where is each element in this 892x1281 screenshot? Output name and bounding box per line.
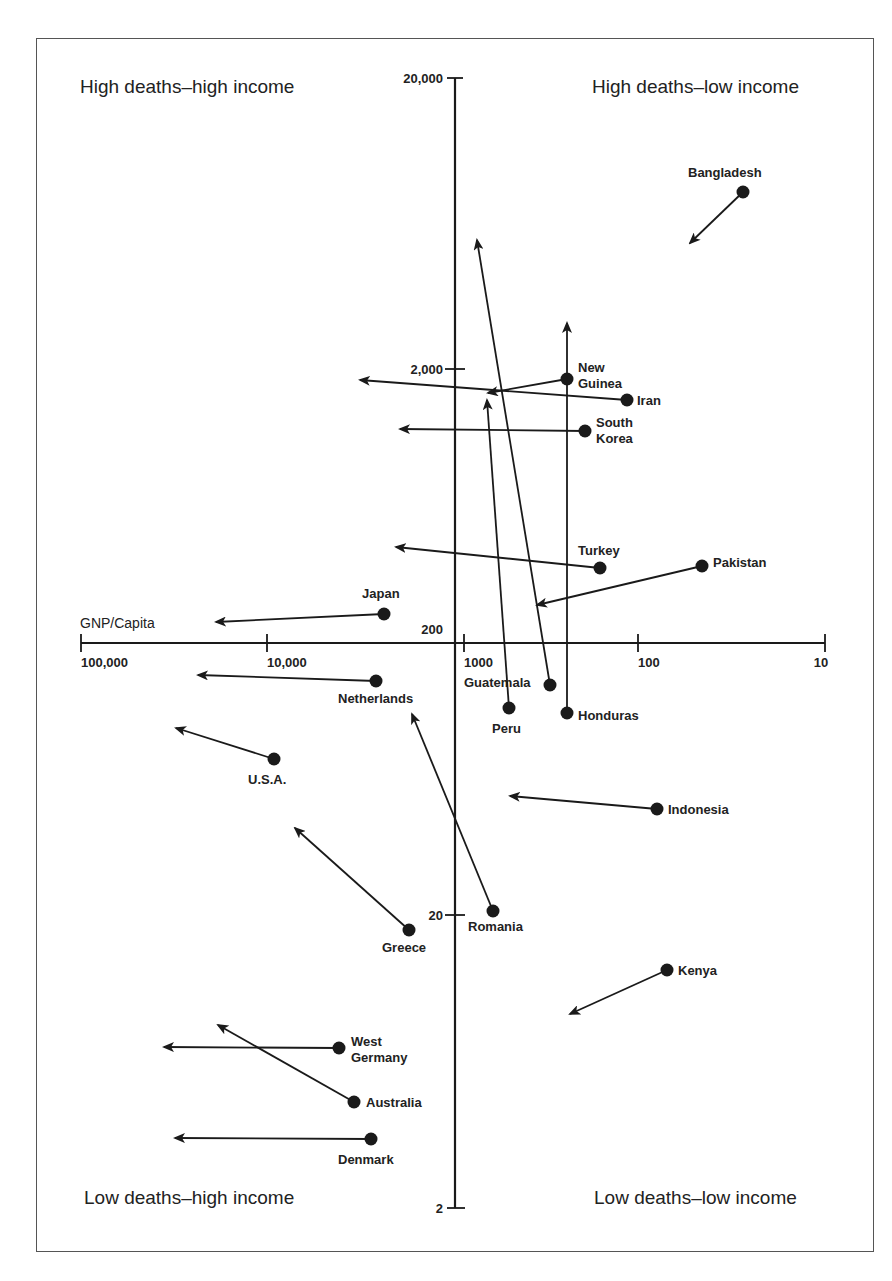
arrow-line: [198, 675, 376, 681]
arrow-line: [175, 1138, 371, 1139]
data-point-dot: [268, 753, 281, 766]
country-arrow: U.S.A.: [176, 728, 286, 787]
data-point-dot: [333, 1042, 346, 1055]
data-point-dot: [348, 1096, 361, 1109]
country-label-line2: Germany: [351, 1050, 408, 1065]
country-label: Turkey: [578, 543, 620, 558]
country-arrow: Romania: [412, 714, 524, 934]
y-tick-label: 20,000: [403, 71, 443, 86]
country-arrow: Bangladesh: [688, 165, 762, 243]
country-arrow: Netherlands: [198, 675, 413, 707]
country-label: Peru: [492, 721, 521, 736]
data-point-dot: [403, 924, 416, 937]
country-label: Honduras: [578, 708, 639, 723]
arrow-line: [537, 566, 702, 605]
arrow-line: [218, 1025, 354, 1102]
country-arrow: WestGermany: [164, 1034, 408, 1065]
arrow-line: [690, 192, 743, 243]
country-label-line2: Guinea: [578, 376, 623, 391]
country-arrow: Pakistan: [537, 555, 767, 605]
country-label: South: [596, 415, 633, 430]
country-label: Denmark: [338, 1152, 394, 1167]
country-label: New: [578, 360, 606, 375]
data-point-dot: [370, 675, 383, 688]
country-label: Bangladesh: [688, 165, 762, 180]
data-point-dot: [561, 707, 574, 720]
x-tick-label: 10: [814, 655, 828, 670]
data-point-dot: [365, 1133, 378, 1146]
country-label: Japan: [362, 586, 400, 601]
data-point-dot: [579, 425, 592, 438]
country-arrow: SouthKorea: [400, 415, 634, 446]
data-point-dot: [594, 562, 607, 575]
country-arrow: Australia: [218, 1025, 422, 1110]
country-label: Romania: [468, 919, 524, 934]
country-label: West: [351, 1034, 382, 1049]
country-label-line2: Korea: [596, 431, 634, 446]
arrow-line: [176, 728, 274, 759]
country-arrow: Turkey: [396, 543, 620, 575]
arrow-line: [412, 714, 493, 911]
country-label: Guatemala: [464, 675, 531, 690]
country-label: Greece: [382, 940, 426, 955]
y-tick-label: 2: [436, 1201, 443, 1216]
x-tick-label: 10,000: [267, 655, 307, 670]
data-point-dot: [378, 608, 391, 621]
data-point-dot: [503, 702, 516, 715]
arrow-line: [400, 429, 585, 431]
data-point-dot: [487, 905, 500, 918]
country-arrow: Kenya: [570, 963, 718, 1014]
y-tick-label: 2,000: [410, 362, 443, 377]
country-label: Kenya: [678, 963, 718, 978]
country-arrow: Greece: [295, 828, 426, 955]
data-point-dot: [661, 964, 674, 977]
data-point-dot: [696, 560, 709, 573]
arrow-line: [570, 970, 667, 1014]
arrow-plot: 100,00010,000100010010GNP/Capita20,0002,…: [0, 0, 892, 1281]
y-tick-label: 200: [421, 622, 443, 637]
country-arrow: Denmark: [175, 1133, 394, 1168]
data-point-dot: [544, 679, 557, 692]
data-point-dot: [621, 394, 634, 407]
y-tick-label: 20: [429, 908, 443, 923]
axes: 100,00010,000100010010GNP/Capita20,0002,…: [80, 71, 828, 1216]
country-arrow: NewGuinea: [488, 360, 623, 393]
arrow-line: [510, 796, 657, 809]
country-label: Pakistan: [713, 555, 767, 570]
country-label: Iran: [637, 393, 661, 408]
country-label: U.S.A.: [248, 772, 286, 787]
arrow-line: [164, 1047, 339, 1048]
country-label: Netherlands: [338, 691, 413, 706]
arrow-line: [477, 240, 550, 685]
country-label: Australia: [366, 1095, 422, 1110]
country-arrow: Indonesia: [510, 796, 729, 817]
data-point-dot: [737, 186, 750, 199]
country-arrow: Guatemala: [464, 240, 557, 692]
country-label: Indonesia: [668, 802, 729, 817]
x-axis-title: GNP/Capita: [80, 615, 155, 631]
x-tick-label: 100,000: [81, 655, 128, 670]
x-tick-label: 1000: [464, 655, 493, 670]
arrow-line: [216, 614, 384, 622]
country-arrow: Japan: [216, 586, 400, 622]
x-tick-label: 100: [638, 655, 660, 670]
data-point-dot: [651, 803, 664, 816]
arrow-line: [295, 828, 409, 930]
